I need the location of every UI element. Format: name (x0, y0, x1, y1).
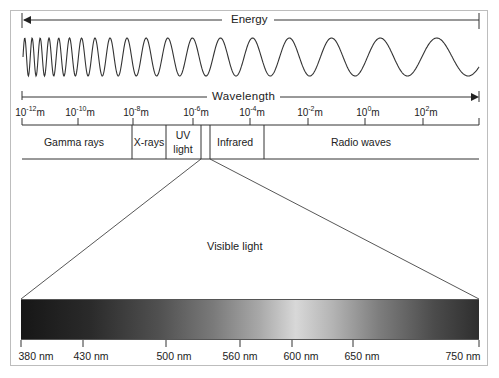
wavelength-scale (22, 118, 479, 125)
visible-scale-ticks (21, 340, 479, 347)
visible-tick-label: 500 nm (156, 351, 191, 362)
wavelength-tick-label: 10-12m (15, 105, 45, 118)
visible-tick-label: 750 nm (445, 351, 480, 362)
visible-tick-label: 560 nm (222, 351, 257, 362)
region-uv-light-line1: UV (176, 129, 191, 142)
wavelength-label: Wavelength (212, 91, 275, 103)
region-infrared: Infrared (217, 136, 253, 149)
wavelength-tick-label: 100m (356, 105, 379, 118)
wavelength-tick-label: 10-10m (65, 105, 95, 118)
visible-tick-label: 650 nm (344, 351, 379, 362)
visible-tick-label: 430 nm (73, 351, 108, 362)
visible-zoom-lines (21, 159, 479, 299)
wavelength-tick-label: 10-2m (297, 105, 323, 118)
region-uv-light-line2: light (173, 143, 192, 156)
wavelength-tick-label: 102m (414, 105, 437, 118)
energy-arrowhead-icon (23, 16, 31, 24)
visible-light-label: Visible light (207, 241, 262, 252)
wavelength-arrowhead-icon (471, 93, 479, 101)
region-radio-waves: Radio waves (331, 136, 391, 149)
energy-label: Energy (231, 14, 267, 26)
region-gamma-rays: Gamma rays (44, 136, 104, 149)
wave-curve (23, 38, 479, 76)
wavelength-tick-label: 10-6m (183, 105, 209, 118)
wavelength-tick-label: 10-8m (123, 105, 149, 118)
wavelength-tick-label: 10-4m (239, 105, 265, 118)
visible-tick-label: 380 nm (18, 351, 53, 362)
region-x-rays: X-rays (134, 136, 164, 149)
visible-tick-label: 600 nm (283, 351, 318, 362)
visible-spectrum-band (21, 299, 479, 340)
